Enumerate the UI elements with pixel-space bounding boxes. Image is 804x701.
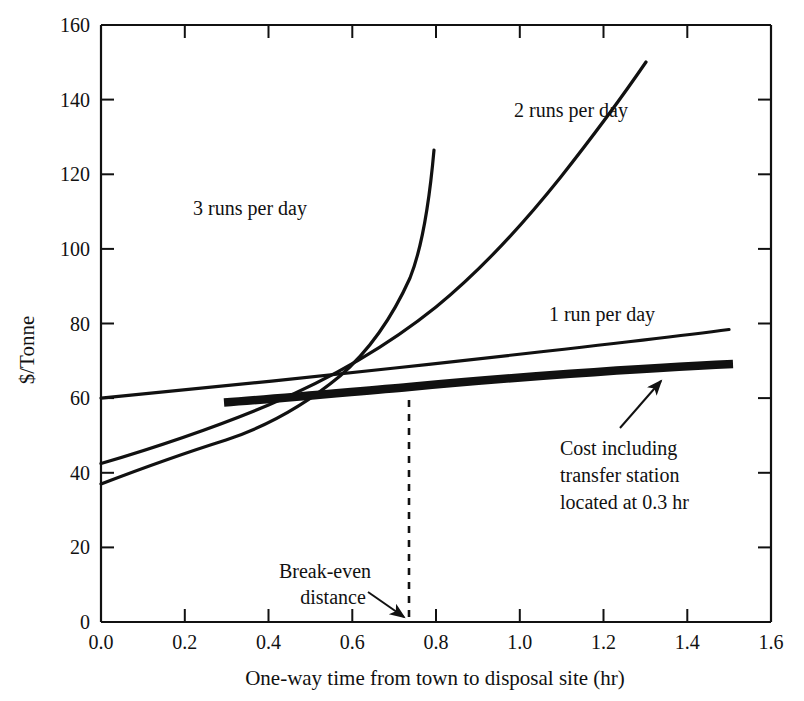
break-even-label-line2: distance (300, 586, 366, 608)
chart-canvas: 0 20 40 60 80 100 120 140 160 0.0 0.2 0.… (0, 0, 804, 701)
chart-container: 0 20 40 60 80 100 120 140 160 0.0 0.2 0.… (0, 0, 804, 701)
x-tick-labels: 0.0 0.2 0.4 0.6 0.8 1.0 1.2 1.4 1.6 (89, 631, 784, 653)
y-axis-title: $/Tonne (15, 316, 39, 385)
y-tick-label: 140 (60, 89, 90, 111)
x-tick-label: 0.4 (256, 631, 281, 653)
y-tick-label: 40 (70, 462, 90, 484)
y-tick-label: 0 (80, 611, 90, 633)
curve-cost-including-transfer-station (224, 364, 733, 403)
y-tick-marks-right (758, 100, 771, 548)
transfer-station-arrow (620, 381, 661, 428)
series-label-2-runs-per-day: 2 runs per day (514, 99, 628, 122)
x-tick-label: 1.0 (507, 631, 532, 653)
y-tick-label: 60 (70, 387, 90, 409)
y-tick-marks (101, 25, 114, 622)
x-tick-label: 0.0 (89, 631, 114, 653)
series-label-1-run-per-day: 1 run per day (549, 303, 655, 326)
x-tick-label: 1.4 (675, 631, 700, 653)
x-tick-label: 0.8 (424, 631, 449, 653)
y-tick-labels: 0 20 40 60 80 100 120 140 160 (60, 14, 90, 633)
annotation-transfer-station: Cost including transfer station located … (560, 381, 689, 513)
break-even-arrow (368, 592, 404, 617)
transfer-station-label-line2: transfer station (560, 464, 679, 486)
x-tick-marks (101, 609, 771, 622)
annotation-break-even: Break-even distance (279, 560, 404, 617)
x-axis-title: One-way time from town to disposal site … (245, 666, 625, 690)
transfer-station-label-line1: Cost including (560, 437, 677, 460)
curve-2-runs-per-day (101, 62, 646, 464)
x-tick-label: 1.2 (591, 631, 616, 653)
y-tick-label: 100 (60, 238, 90, 260)
plot-axes (101, 25, 771, 622)
x-tick-label: 0.2 (172, 631, 197, 653)
y-tick-label: 120 (60, 163, 90, 185)
transfer-station-label-line3: located at 0.3 hr (560, 491, 689, 513)
y-tick-label: 160 (60, 14, 90, 36)
y-tick-label: 80 (70, 313, 90, 335)
y-tick-label: 20 (70, 536, 90, 558)
break-even-label-line1: Break-even (279, 560, 371, 582)
series-label-3-runs-per-day: 3 runs per day (193, 197, 307, 220)
x-tick-label: 0.6 (340, 631, 365, 653)
x-tick-label: 1.6 (759, 631, 784, 653)
x-tick-marks-top (185, 25, 688, 38)
